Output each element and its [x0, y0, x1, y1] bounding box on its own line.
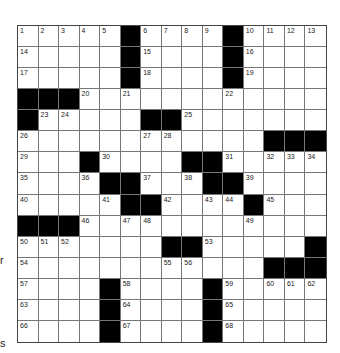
grid-cell[interactable]: 3	[59, 26, 80, 47]
grid-cell[interactable]	[39, 321, 60, 342]
grid-cell[interactable]: 31	[223, 152, 244, 173]
grid-cell[interactable]: 7	[162, 26, 183, 47]
grid-cell[interactable]	[223, 258, 244, 279]
grid-cell[interactable]	[59, 131, 80, 152]
grid-cell[interactable]	[182, 216, 203, 237]
grid-cell[interactable]	[285, 173, 306, 194]
grid-cell[interactable]: 44	[223, 195, 244, 216]
grid-cell[interactable]	[182, 131, 203, 152]
grid-cell[interactable]	[182, 89, 203, 110]
grid-cell[interactable]	[305, 47, 326, 68]
grid-cell[interactable]	[59, 68, 80, 89]
grid-cell[interactable]	[59, 173, 80, 194]
grid-cell[interactable]	[223, 110, 244, 131]
grid-cell[interactable]: 13	[305, 26, 326, 47]
grid-cell[interactable]	[80, 321, 101, 342]
grid-cell[interactable]: 59	[223, 279, 244, 300]
grid-cell[interactable]: 56	[182, 258, 203, 279]
grid-cell[interactable]	[100, 89, 121, 110]
grid-cell[interactable]: 49	[244, 216, 265, 237]
grid-cell[interactable]: 35	[18, 173, 39, 194]
grid-cell[interactable]: 63	[18, 300, 39, 321]
grid-cell[interactable]: 25	[182, 110, 203, 131]
grid-cell[interactable]: 27	[141, 131, 162, 152]
grid-cell[interactable]	[244, 110, 265, 131]
grid-cell[interactable]	[39, 173, 60, 194]
grid-cell[interactable]: 48	[141, 216, 162, 237]
grid-cell[interactable]: 62	[305, 279, 326, 300]
grid-cell[interactable]	[39, 152, 60, 173]
grid-cell[interactable]	[39, 195, 60, 216]
grid-cell[interactable]: 47	[121, 216, 142, 237]
grid-cell[interactable]	[100, 47, 121, 68]
grid-cell[interactable]	[39, 258, 60, 279]
grid-cell[interactable]: 58	[121, 279, 142, 300]
grid-cell[interactable]	[182, 195, 203, 216]
grid-cell[interactable]: 12	[285, 26, 306, 47]
grid-cell[interactable]	[100, 68, 121, 89]
grid-cell[interactable]: 46	[80, 216, 101, 237]
grid-cell[interactable]	[244, 89, 265, 110]
grid-cell[interactable]: 37	[141, 173, 162, 194]
grid-cell[interactable]: 18	[141, 68, 162, 89]
grid-cell[interactable]	[121, 237, 142, 258]
grid-cell[interactable]: 67	[121, 321, 142, 342]
grid-cell[interactable]	[264, 321, 285, 342]
grid-cell[interactable]	[80, 195, 101, 216]
grid-cell[interactable]	[305, 216, 326, 237]
grid-cell[interactable]	[285, 110, 306, 131]
grid-cell[interactable]: 64	[121, 300, 142, 321]
grid-cell[interactable]: 19	[244, 68, 265, 89]
grid-cell[interactable]: 55	[162, 258, 183, 279]
grid-cell[interactable]: 45	[264, 195, 285, 216]
grid-cell[interactable]: 17	[18, 68, 39, 89]
grid-cell[interactable]	[223, 237, 244, 258]
grid-cell[interactable]	[305, 321, 326, 342]
grid-cell[interactable]: 33	[285, 152, 306, 173]
grid-cell[interactable]	[203, 110, 224, 131]
grid-cell[interactable]	[264, 68, 285, 89]
grid-cell[interactable]	[203, 89, 224, 110]
grid-cell[interactable]	[244, 300, 265, 321]
grid-cell[interactable]	[100, 216, 121, 237]
grid-cell[interactable]	[244, 258, 265, 279]
grid-cell[interactable]	[59, 279, 80, 300]
grid-cell[interactable]: 57	[18, 279, 39, 300]
grid-cell[interactable]	[285, 195, 306, 216]
grid-cell[interactable]: 16	[244, 47, 265, 68]
grid-cell[interactable]	[162, 300, 183, 321]
grid-cell[interactable]	[182, 321, 203, 342]
grid-cell[interactable]: 8	[182, 26, 203, 47]
grid-cell[interactable]	[59, 258, 80, 279]
grid-cell[interactable]	[100, 237, 121, 258]
grid-cell[interactable]	[285, 216, 306, 237]
grid-cell[interactable]: 43	[203, 195, 224, 216]
grid-cell[interactable]: 41	[100, 195, 121, 216]
grid-cell[interactable]	[264, 216, 285, 237]
grid-cell[interactable]: 36	[80, 173, 101, 194]
grid-cell[interactable]	[162, 321, 183, 342]
grid-cell[interactable]	[162, 173, 183, 194]
grid-cell[interactable]	[141, 300, 162, 321]
grid-cell[interactable]	[285, 89, 306, 110]
grid-cell[interactable]	[203, 47, 224, 68]
grid-cell[interactable]	[80, 279, 101, 300]
grid-cell[interactable]	[305, 68, 326, 89]
grid-cell[interactable]: 23	[39, 110, 60, 131]
grid-cell[interactable]	[285, 300, 306, 321]
grid-cell[interactable]	[80, 68, 101, 89]
grid-cell[interactable]	[141, 258, 162, 279]
grid-cell[interactable]	[223, 216, 244, 237]
grid-cell[interactable]	[203, 216, 224, 237]
grid-cell[interactable]: 40	[18, 195, 39, 216]
grid-cell[interactable]: 32	[264, 152, 285, 173]
grid-cell[interactable]: 26	[18, 131, 39, 152]
grid-cell[interactable]	[141, 237, 162, 258]
grid-cell[interactable]	[59, 152, 80, 173]
grid-cell[interactable]: 1	[18, 26, 39, 47]
grid-cell[interactable]	[121, 131, 142, 152]
grid-cell[interactable]: 54	[18, 258, 39, 279]
grid-cell[interactable]	[80, 300, 101, 321]
grid-cell[interactable]	[80, 258, 101, 279]
grid-cell[interactable]	[264, 237, 285, 258]
